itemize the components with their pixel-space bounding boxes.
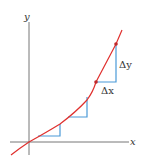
delta-y-label: Δy bbox=[119, 60, 132, 70]
delta-x-label: Δx bbox=[101, 86, 114, 96]
point-a bbox=[94, 80, 98, 84]
derivative-step-diagram bbox=[0, 0, 143, 162]
step-2 bbox=[68, 97, 87, 117]
x-axis-label: x bbox=[130, 137, 136, 147]
point-b bbox=[114, 42, 118, 46]
y-axis-label: y bbox=[24, 12, 30, 22]
